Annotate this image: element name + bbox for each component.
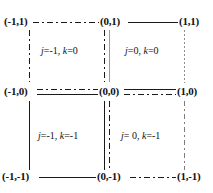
edge-left-vertical-lower — [29, 101, 30, 170]
edge-right-vertical-upper — [184, 30, 185, 83]
edge-center-vertical-upper-solid — [109, 30, 110, 82]
unit-cell-grid-figure: (-1,1) (0,1) (1,1) (-1,0) (0,0) (1,0) (-… — [0, 0, 213, 193]
cell-label-top-left: j=-1, k=0 — [40, 45, 79, 57]
edge-center-vertical-lower-dashdot — [109, 101, 110, 171]
edge-bottom-left-horizontal — [39, 177, 101, 178]
edge-right-vertical-lower — [184, 101, 185, 171]
vertex-label-top-mid: (0,1) — [99, 15, 121, 27]
edge-center-vertical-lower-solid — [104, 101, 105, 171]
edge-mid-left-horizontal-dashdot — [37, 89, 100, 90]
vertex-label-bottom-left: (-1,-1) — [1, 170, 30, 182]
vertex-label-mid-right: (1,0) — [176, 85, 198, 97]
vertex-label-center: (0,0) — [98, 85, 120, 97]
cell-label-top-right: j=0, k=0 — [124, 45, 160, 57]
vertex-label-mid-left: (-1,0) — [3, 85, 29, 97]
edge-mid-right-horizontal-dashdot — [124, 94, 177, 95]
edge-top-left-horizontal — [33, 22, 102, 23]
cell-label-bottom-left: j=-1, k=-1 — [37, 130, 79, 142]
edge-mid-right-horizontal-solid — [124, 89, 177, 90]
vertex-label-top-left: (-1,1) — [3, 15, 29, 27]
edge-center-vertical-upper-dashdot — [104, 30, 105, 82]
vertex-label-bottom-right: (1,-1) — [176, 170, 202, 182]
vertex-label-top-right: (1,1) — [178, 15, 200, 27]
cell-label-bottom-right: j= 0, k=-1 — [120, 130, 161, 142]
edge-mid-left-horizontal-solid — [37, 94, 100, 95]
edge-left-vertical-upper — [29, 30, 30, 82]
vertex-label-bottom-mid: (0,-1) — [96, 170, 122, 182]
edge-top-right-horizontal — [128, 22, 180, 23]
edge-bottom-right-horizontal — [130, 177, 178, 178]
